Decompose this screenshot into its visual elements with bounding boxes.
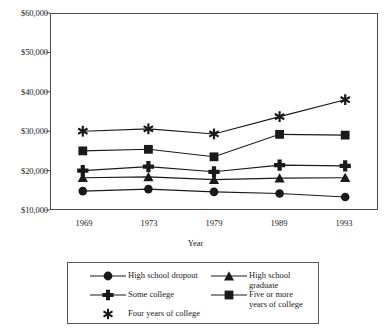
series-some-college [77, 159, 351, 177]
legend-item-some-college: Some college [88, 288, 174, 302]
data-point-plus [208, 166, 219, 177]
asterisk-marker-icon [88, 307, 128, 321]
square-marker-icon [209, 288, 249, 302]
series-high-school-dropout [79, 185, 350, 201]
chart-figure: $60,000 $50,000 $40,000 $30,000 $20,000 … [0, 0, 391, 334]
data-point-asterisk [341, 94, 350, 105]
data-point-square [78, 147, 87, 156]
legend-item-label: High school graduate [249, 269, 318, 290]
data-point-square [275, 130, 284, 139]
legend-item-label: Four years of college [128, 307, 200, 319]
circle-marker-icon [88, 269, 128, 283]
legend-item-five-or-more-years-of-college: Five or more years of college [209, 288, 303, 302]
legend-item-high-school-graduate: High school graduate [209, 269, 318, 283]
legend-item-label: Five or more years of college [249, 288, 303, 309]
data-point-plus [77, 165, 88, 176]
series-four-years-of-college [78, 94, 350, 139]
data-point-circle [144, 185, 153, 194]
legend-item-label: Some college [128, 288, 174, 300]
data-point-circle [210, 188, 219, 197]
data-point-plus [274, 159, 285, 170]
plus-marker-icon [88, 288, 128, 302]
data-point-circle [341, 193, 350, 202]
data-point-circle [79, 187, 88, 196]
triangle-marker-icon [209, 269, 249, 283]
legend-item-label: High school dropout [128, 269, 198, 281]
data-point-asterisk [275, 111, 284, 122]
data-point-square [144, 145, 153, 154]
data-point-plus [340, 160, 351, 171]
data-point-plus [143, 161, 154, 172]
data-point-square [341, 131, 350, 140]
data-point-circle [275, 189, 284, 198]
legend-item-four-years-of-college: Four years of college [88, 307, 200, 321]
data-point-square [210, 152, 219, 161]
legend-item-high-school-dropout: High school dropout [88, 269, 198, 283]
chart-legend: High school dropout High school graduate… [67, 262, 319, 324]
